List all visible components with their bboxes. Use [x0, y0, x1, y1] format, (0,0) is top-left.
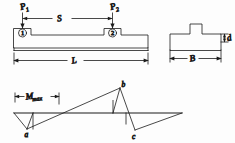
- dimension-length-l: [13, 53, 149, 64]
- cross-section-outline: [170, 24, 221, 50]
- label-point-c: c: [132, 132, 136, 141]
- label-load-p2-subscript: 2: [115, 6, 120, 13]
- dimension-span-s: [22, 17, 113, 21]
- label-point-b: b: [122, 80, 126, 89]
- label-dimension-s: S: [56, 13, 62, 24]
- label-dimension-l: L: [70, 55, 77, 66]
- moment-triangle-peak: [113, 88, 135, 130]
- technical-drawing-canvas: P 1 P 2 S 1: [0, 0, 235, 143]
- label-load-p1-subscript: 1: [25, 6, 30, 13]
- label-point-a: a: [25, 130, 29, 139]
- label-mmax-subscript: max: [32, 95, 43, 102]
- load-arrow-p2: [110, 13, 114, 29]
- support-marker-1-label: 1: [21, 29, 24, 36]
- beam-outline: [14, 29, 148, 51]
- support-marker-2-label: 2: [111, 29, 114, 36]
- drawing-sheet: P 1 P 2 S 1: [0, 0, 235, 143]
- label-dimension-b: B: [189, 53, 196, 64]
- load-arrow-p1: [20, 13, 24, 29]
- dimension-width-b: [169, 50, 222, 62]
- label-dimension-d: d: [226, 32, 233, 43]
- moment-chord-ab: [27, 88, 120, 129]
- moment-triangle-left: [14, 113, 33, 129]
